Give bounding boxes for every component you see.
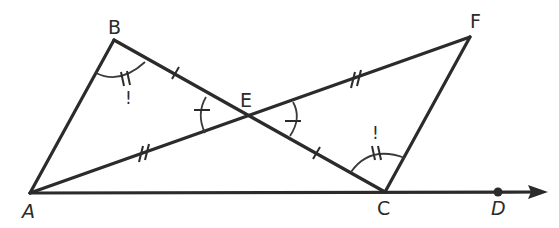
label-f: F bbox=[470, 10, 481, 32]
angle-arc-fec bbox=[290, 102, 297, 136]
angle-arc-aeb bbox=[201, 97, 206, 133]
label-c: C bbox=[377, 197, 390, 219]
ray-ad bbox=[30, 192, 540, 193]
segment-ab bbox=[30, 40, 114, 193]
label-a: A bbox=[20, 200, 35, 222]
point-d bbox=[494, 188, 503, 197]
angle-annotation-c: ! bbox=[372, 123, 379, 143]
segment-fc bbox=[385, 37, 470, 192]
label-b: B bbox=[108, 16, 121, 38]
label-e: E bbox=[240, 89, 252, 111]
angle-arc-b bbox=[96, 62, 145, 77]
geometry-diagram: ! ! B E F A C D bbox=[0, 0, 559, 228]
label-d: D bbox=[491, 197, 506, 219]
angle-annotation-b: ! bbox=[125, 88, 132, 108]
segment-af bbox=[30, 37, 470, 193]
double-tick-angle-c bbox=[372, 146, 381, 160]
arrowhead-icon bbox=[528, 185, 548, 199]
